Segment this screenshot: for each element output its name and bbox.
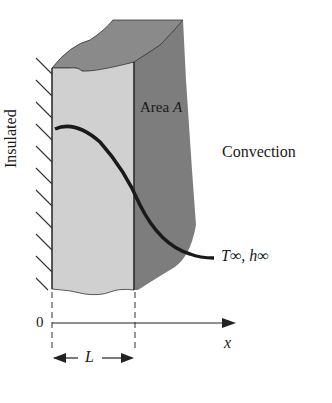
convection-label: Convection [222, 143, 296, 161]
length-label: L [85, 348, 94, 366]
fin-side-face [134, 20, 196, 290]
area-label: Area A [140, 99, 182, 116]
insulation-hatch [36, 58, 52, 290]
dimension-dashes [52, 292, 135, 350]
insulated-label: Insulated [2, 109, 20, 168]
origin-label: 0 [36, 314, 44, 331]
x-axis-label: x [224, 334, 231, 352]
ambient-conditions-label: T∞, h∞ [221, 247, 269, 265]
x-axis-arrowhead [222, 318, 236, 328]
fin-front-face [52, 62, 134, 295]
fin-diagram [0, 0, 332, 403]
